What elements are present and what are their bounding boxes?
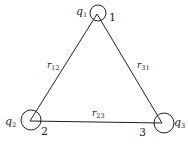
charge-label-q1: q1: [76, 5, 87, 19]
distance-label-r12: r12: [47, 60, 60, 72]
charge-label-q3: q3: [174, 116, 185, 130]
vertex-number-3: 3: [139, 126, 146, 139]
edge-r12: [30, 14, 97, 121]
edge-r23: [30, 121, 162, 123]
vertex-number-2: 2: [41, 125, 48, 138]
distance-label-r23: r23: [92, 108, 105, 120]
charge-circle-1: [90, 5, 106, 21]
vertex-number-1: 1: [109, 11, 116, 24]
charge-triangle-diagram: q1 q2 q3 1 2 3 r12 r23 r31: [0, 0, 189, 146]
distance-label-r31: r31: [137, 60, 150, 72]
edge-r31: [97, 14, 162, 123]
charge-label-q2: q2: [5, 115, 16, 129]
